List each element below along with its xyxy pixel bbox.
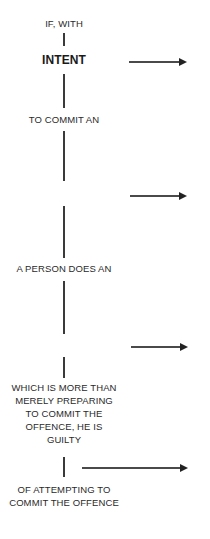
connector-line	[63, 457, 65, 477]
text-line: OF ATTEMPTING TO	[0, 483, 128, 496]
arrow-right-icon	[129, 61, 185, 63]
arrow-right-icon	[131, 346, 186, 348]
connector-line	[63, 131, 65, 181]
text-line: TO COMMIT THE	[0, 407, 128, 420]
label-to-commit-an: TO COMMIT AN	[0, 113, 128, 126]
connector-line	[63, 33, 65, 46]
text-line: COMMIT THE OFFENCE	[0, 496, 128, 509]
connector-line	[63, 206, 65, 258]
text-line: GUILTY	[0, 433, 128, 446]
connector-line	[63, 74, 65, 108]
label-person-does-an: A PERSON DOES AN	[0, 262, 128, 275]
label-intent: INTENT	[0, 54, 128, 67]
arrow-right-icon	[130, 195, 185, 197]
text-line: WHICH IS MORE THAN	[0, 381, 128, 394]
text-line: OFFENCE, HE IS	[0, 420, 128, 433]
connector-line	[63, 357, 65, 378]
label-if-with: IF, WITH	[0, 17, 128, 30]
arrow-right-icon	[82, 467, 186, 469]
connector-line	[63, 281, 65, 334]
text-line: MERELY PREPARING	[0, 394, 128, 407]
